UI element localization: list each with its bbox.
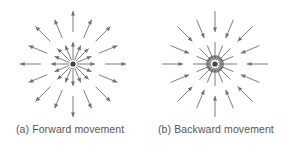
arrowhead-icon	[219, 62, 224, 66]
caption-forward-movement: (a) Forward movement	[16, 123, 124, 135]
panel-backward-movement	[0, 0, 287, 120]
focus-of-expansion-dot	[212, 61, 217, 66]
arrowhead-icon	[178, 62, 183, 66]
arrowhead-icon	[213, 27, 217, 32]
arrowhead-icon	[206, 62, 211, 66]
caption-backward-movement: (b) Backward movement	[158, 123, 274, 135]
optic-flow-contraction-diagram	[0, 0, 287, 120]
arrowhead-icon	[213, 96, 217, 101]
arrowhead-icon	[213, 55, 217, 60]
arrowhead-icon	[247, 62, 252, 66]
arrowhead-icon	[213, 68, 217, 73]
